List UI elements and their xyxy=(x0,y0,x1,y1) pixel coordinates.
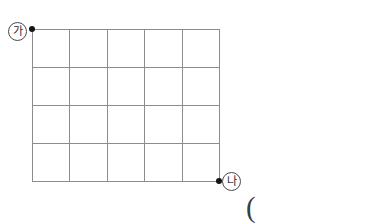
figure-canvas: 가 나 ( xyxy=(0,0,390,223)
grid-line-horizontal-3 xyxy=(32,143,220,144)
grid-line-horizontal-2 xyxy=(32,105,220,106)
grid-line-horizontal-1 xyxy=(32,67,220,68)
start-node-dot xyxy=(29,26,35,32)
grid-line-horizontal-4 xyxy=(32,181,220,182)
end-node-label-na: 나 xyxy=(222,172,241,191)
grid-line-horizontal-0 xyxy=(32,29,220,30)
trailing-parenthesis: ( xyxy=(246,193,256,222)
start-node-label-ga: 가 xyxy=(8,22,27,41)
lattice-grid-figure: 가 나 xyxy=(0,0,390,223)
